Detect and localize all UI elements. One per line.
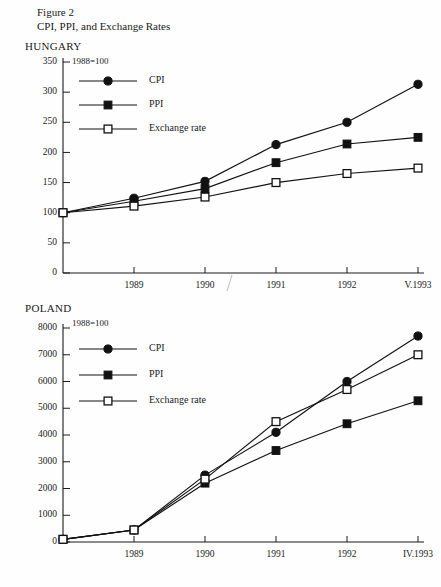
data-point-marker: [414, 80, 422, 88]
data-point-marker: [414, 164, 422, 172]
data-point-marker: [414, 351, 422, 359]
legend-marker-filled-circle: [104, 345, 112, 353]
x-axis-tick-label: 1989: [125, 280, 144, 290]
legend-label: PPI: [149, 368, 163, 379]
series-line-ppi: [63, 401, 418, 540]
figure-label: Figure 2: [37, 6, 170, 20]
data-point-marker: [59, 209, 67, 217]
data-point-marker: [272, 179, 280, 187]
legend-marker-filled-square: [104, 101, 112, 109]
y-axis-tick-label: 250: [43, 116, 58, 126]
legend-label: PPI: [149, 98, 163, 109]
base-note-hungary: 1988=100: [72, 56, 109, 66]
y-axis-tick-label: 3000: [38, 456, 57, 466]
y-axis-tick-label: 6000: [38, 376, 57, 386]
data-point-marker: [272, 159, 280, 167]
legend-label: Exchange rate: [149, 394, 206, 405]
y-axis-tick-label: 150: [43, 177, 58, 187]
y-axis-tick-label: 4000: [38, 429, 57, 439]
y-axis-tick-label: 1000: [38, 509, 57, 519]
figure-title: CPI, PPI, and Exchange Rates: [37, 20, 170, 34]
data-point-marker: [130, 526, 138, 534]
panel-title-hungary: HUNGARY: [25, 40, 82, 52]
data-point-marker: [130, 202, 138, 210]
y-axis-tick-label: 50: [48, 237, 58, 247]
data-point-marker: [414, 133, 422, 141]
panel-title-poland: POLAND: [25, 302, 71, 314]
legend-label: CPI: [149, 342, 165, 353]
data-point-marker: [414, 397, 422, 405]
series-line-cpi: [63, 84, 418, 212]
series-line-exchange-rate: [63, 168, 418, 213]
y-axis-tick-label: 100: [43, 207, 58, 217]
y-axis-tick-label: 7000: [38, 349, 57, 359]
x-axis-tick-label: IV.1993: [403, 549, 433, 559]
y-axis-tick-label: 8000: [38, 322, 57, 332]
data-point-marker: [414, 332, 422, 340]
x-axis-tick-label: 1992: [338, 549, 357, 559]
data-point-marker: [343, 386, 351, 394]
x-axis-tick-label: 1991: [267, 280, 286, 290]
chart-panel-hungary: HUNGARY 1988=100 05010015020025030035019…: [0, 40, 441, 300]
legend-marker-filled-square: [104, 371, 112, 379]
data-point-marker: [201, 475, 209, 483]
data-point-marker: [343, 377, 351, 385]
data-point-marker: [272, 140, 280, 148]
y-axis-tick-label: 2000: [38, 483, 57, 493]
data-point-marker: [272, 428, 280, 436]
data-point-marker: [343, 118, 351, 126]
legend-label: Exchange rate: [149, 122, 206, 133]
data-point-marker: [272, 418, 280, 426]
y-axis-tick-label: 300: [43, 86, 58, 96]
y-axis-tick-label: 5000: [38, 402, 57, 412]
chart-svg-hungary: 0501001502002503003501989199019911992V.1…: [0, 40, 441, 290]
series-line-cpi: [63, 336, 418, 539]
data-point-marker: [272, 447, 280, 455]
data-point-marker: [343, 140, 351, 148]
y-axis-tick-label: 0: [52, 536, 57, 546]
base-note-poland: 1988=100: [72, 318, 109, 328]
legend-marker-filled-circle: [104, 77, 112, 85]
data-point-marker: [201, 193, 209, 201]
y-axis-tick-label: 200: [43, 147, 58, 157]
data-point-marker: [343, 420, 351, 428]
chart-svg-poland: 0100020003000400050006000700080001989199…: [0, 302, 441, 574]
y-axis-tick-label: 350: [43, 56, 58, 66]
data-point-marker: [201, 185, 209, 193]
x-axis-tick-label: 1991: [267, 549, 286, 559]
x-axis-tick-label: 1989: [125, 549, 144, 559]
legend-label: CPI: [149, 74, 165, 85]
x-axis-tick-label: 1990: [196, 280, 215, 290]
data-point-marker: [343, 170, 351, 178]
data-point-marker: [59, 535, 67, 543]
y-axis-tick-label: 0: [52, 267, 57, 277]
x-axis-tick-label: 1992: [338, 280, 357, 290]
x-axis-tick-label: 1990: [196, 549, 215, 559]
legend-marker-open-square: [104, 397, 112, 405]
figure-heading: Figure 2 CPI, PPI, and Exchange Rates: [37, 6, 170, 33]
legend-marker-open-square: [104, 125, 112, 133]
series-line-exchange-rate: [63, 355, 418, 540]
x-axis-tick-label: V.1993: [404, 280, 431, 290]
chart-panel-poland: POLAND 1988=100 010002000300040005000600…: [0, 302, 441, 587]
